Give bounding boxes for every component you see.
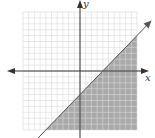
x-axis-label: x xyxy=(145,72,151,83)
coordinate-plane xyxy=(0,0,155,138)
y-axis-label: y xyxy=(83,0,89,9)
x-axis-arrow-left-icon xyxy=(7,68,15,74)
